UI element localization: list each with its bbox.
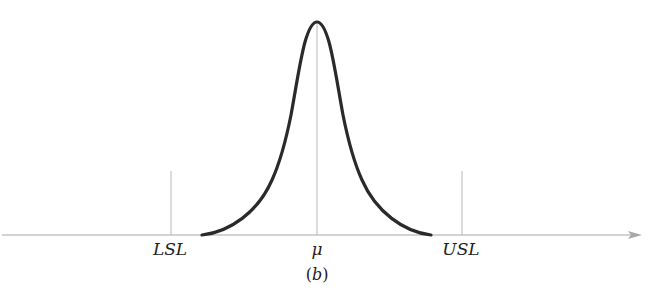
lsl-label: LSL [152,239,187,259]
figure-caption: (b) [306,265,329,284]
usl-label: USL [442,239,479,259]
process-distribution-diagram: LSL μ USL (b) [0,0,648,295]
x-axis [2,231,642,239]
mean-label: μ [311,239,322,259]
